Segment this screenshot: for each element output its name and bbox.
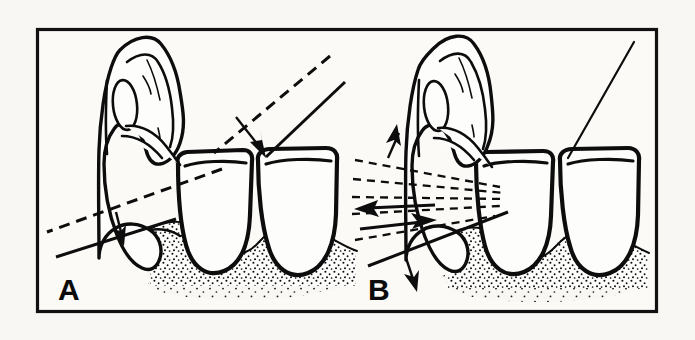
tooth-crown-b-2 [560, 148, 639, 275]
tooth-crown-b-1 [476, 151, 554, 274]
instrument-back-line-a [106, 80, 107, 154]
instrument-back-line-b [418, 80, 419, 156]
dental-illustration-svg: A [0, 0, 695, 340]
panel-label-b: B [368, 273, 390, 306]
figure-container: A [0, 0, 695, 340]
panel-label-a: A [58, 273, 80, 306]
tooth-crown-a-1 [177, 150, 252, 273]
tooth-crown-a-2 [258, 148, 337, 275]
